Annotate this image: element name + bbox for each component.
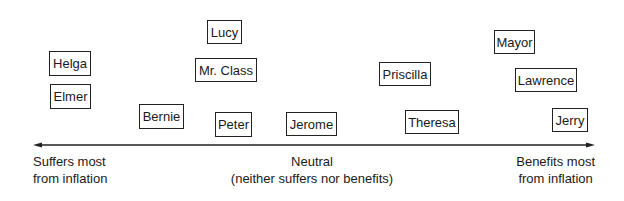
person-box-peter: Peter — [215, 112, 252, 137]
axis-label-right-line1: Benefits most — [516, 153, 595, 170]
person-box-mayor: Mayor — [494, 30, 535, 54]
person-box-jerry: Jerry — [552, 108, 588, 132]
axis-label-center-line2: (neither suffers nor benefits) — [231, 170, 393, 187]
axis-label-benefits: Benefits most from inflation — [516, 153, 595, 187]
person-box-mr-class: Mr. Class — [195, 58, 257, 82]
person-box-elmer: Elmer — [50, 84, 91, 109]
person-box-jerome: Jerome — [286, 112, 337, 136]
axis-label-suffers: Suffers most from inflation — [33, 153, 107, 187]
person-box-bernie: Bernie — [139, 104, 184, 129]
axis-label-center-line1: Neutral — [231, 153, 393, 170]
axis-label-right-line2: from inflation — [516, 170, 595, 187]
axis-label-left-line1: Suffers most — [33, 153, 107, 170]
person-box-theresa: Theresa — [405, 110, 459, 134]
axis-label-left-line2: from inflation — [33, 170, 107, 187]
person-box-lawrence: Lawrence — [515, 68, 577, 92]
person-box-priscilla: Priscilla — [379, 62, 431, 86]
axis-label-neutral: Neutral (neither suffers nor benefits) — [231, 153, 393, 187]
double-arrow-icon — [33, 140, 595, 150]
person-box-helga: Helga — [49, 51, 91, 76]
person-box-lucy: Lucy — [207, 20, 242, 44]
inflation-axis-arrow — [33, 144, 595, 146]
